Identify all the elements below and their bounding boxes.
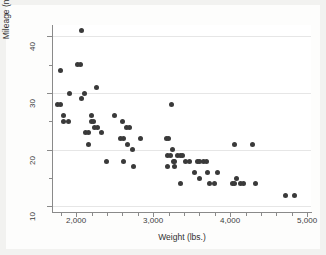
scatter-point (187, 159, 192, 164)
scatter-point (78, 62, 83, 67)
scatter-point (197, 176, 202, 181)
scatter-point (205, 170, 210, 175)
grid-line-y (53, 206, 311, 207)
scatter-point (61, 119, 66, 124)
scatter-point (168, 153, 173, 158)
scatter-point (172, 164, 177, 169)
scatter-point (192, 170, 197, 175)
x-axis-tick-label: 4,000 (210, 216, 250, 225)
y-axis-minor-tick (49, 178, 52, 179)
scatter-point (232, 181, 237, 186)
x-axis-minor-tick (261, 213, 262, 216)
x-axis-minor-tick (292, 213, 293, 216)
y-axis-title: Mileage (mpg) (1, 0, 11, 67)
x-axis-minor-tick (169, 213, 170, 216)
y-axis-tick (47, 93, 52, 94)
x-axis-tick-label: 5,000 (287, 216, 326, 225)
scatter-point (104, 159, 109, 164)
grid-line-y (53, 36, 311, 37)
y-axis-tick (47, 36, 52, 37)
scatter-point (95, 125, 100, 130)
x-axis-minor-tick (199, 213, 200, 216)
scatter-point (91, 119, 96, 124)
scatter-point (125, 142, 130, 147)
x-axis-minor-tick (246, 213, 247, 216)
scatter-point (94, 85, 99, 90)
scatter-point (61, 113, 66, 118)
x-axis-minor-tick (122, 213, 123, 216)
x-axis-minor-tick (107, 213, 108, 216)
y-axis-minor-tick (49, 65, 52, 66)
scatter-point (67, 91, 72, 96)
scatter-point (79, 28, 84, 33)
scatter-point (131, 164, 136, 169)
y-axis-tick-label: 30 (28, 93, 37, 115)
scatter-point (79, 96, 84, 101)
scatter-point (89, 113, 94, 118)
x-axis-tick-label: 2,000 (56, 216, 96, 225)
chart-figure: Mileage (mpg) Weight (lbs.) 102030402,00… (0, 0, 326, 255)
scatter-point (165, 164, 170, 169)
grid-line-y (53, 93, 311, 94)
x-axis-tick-label: 3,000 (133, 216, 173, 225)
scatter-point (120, 119, 125, 124)
x-axis-minor-tick (276, 213, 277, 216)
scatter-point (112, 113, 117, 118)
scatter-point (169, 102, 174, 107)
scatter-point (66, 119, 71, 124)
y-axis-tick-label: 10 (28, 206, 37, 228)
scatter-point (58, 68, 63, 73)
scatter-point (180, 153, 185, 158)
x-axis-minor-tick (92, 213, 93, 216)
y-axis-minor-tick (49, 121, 52, 122)
y-axis-tick (47, 150, 52, 151)
y-axis-tick-label: 40 (28, 36, 37, 58)
chart-paper: Mileage (mpg) Weight (lbs.) 102030402,00… (6, 5, 320, 249)
plot-area (53, 25, 311, 212)
scatter-point (127, 125, 132, 130)
scatter-point (283, 193, 288, 198)
y-axis-tick (47, 206, 52, 207)
x-axis-minor-tick (215, 213, 216, 216)
x-axis-minor-tick (61, 213, 62, 216)
scatter-point (172, 159, 177, 164)
grid-line-y (53, 150, 311, 151)
scatter-point (178, 181, 183, 186)
scatter-point (232, 142, 237, 147)
scatter-point (253, 181, 258, 186)
x-axis-title: Weight (lbs.) (52, 232, 312, 242)
scatter-point (58, 102, 63, 107)
scatter-point (215, 170, 220, 175)
scatter-point (292, 193, 297, 198)
x-axis-minor-tick (184, 213, 185, 216)
scatter-point (204, 159, 209, 164)
scatter-point (121, 159, 126, 164)
scatter-point (241, 181, 246, 186)
scatter-point (130, 147, 135, 152)
scatter-point (166, 136, 171, 141)
scatter-point (86, 130, 91, 135)
plot-area-wrapper (53, 25, 311, 212)
scatter-point (212, 181, 217, 186)
scatter-point (86, 142, 91, 147)
scatter-point (138, 136, 143, 141)
scatter-point (121, 136, 126, 141)
scatter-point (234, 176, 239, 181)
y-axis-tick-label: 20 (28, 149, 37, 171)
scatter-point (99, 130, 104, 135)
scatter-point (250, 142, 255, 147)
scatter-point (82, 91, 87, 96)
scatter-point (170, 147, 175, 152)
x-axis-minor-tick (138, 213, 139, 216)
